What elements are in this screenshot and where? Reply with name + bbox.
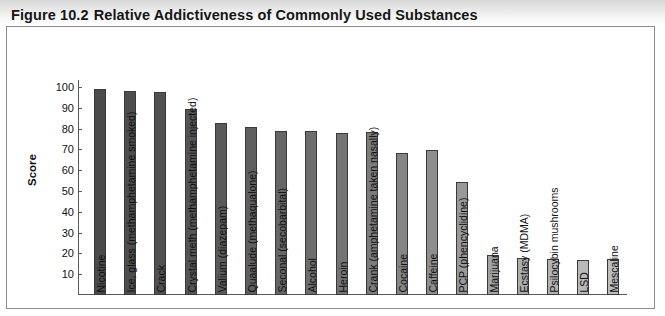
bar-group[interactable]: Heroin (336, 80, 348, 295)
figure-title-band: Figure 10.2Relative Addictiveness of Com… (0, 0, 665, 26)
bar-group[interactable]: Quaalude (methaqualone) (245, 80, 257, 295)
bar-group[interactable]: LSD (577, 80, 589, 295)
bar-group[interactable]: Valium (diazepam) (215, 80, 227, 295)
bar-category-label: Crank (amphetamine taken nasally) (367, 126, 378, 292)
bar-category-label: Crystal meth (methamphetamine injected) (186, 97, 197, 292)
y-axis-tick: 90 (62, 102, 78, 114)
bar-group[interactable]: Marijuana (487, 80, 499, 295)
bar-category-label: Heroin (337, 261, 348, 292)
bar-series: NicotineIce, glass (methamphetamine smok… (78, 80, 627, 295)
bar-category-label: Psilocybin mushrooms (549, 187, 560, 292)
bar-category-label: Marijuana (488, 246, 499, 292)
y-axis-tick: 40 (62, 206, 78, 218)
bar-group[interactable]: Cocaine (396, 80, 408, 295)
figure-title: Figure 10.2Relative Addictiveness of Com… (11, 7, 478, 23)
bar-category-label: Caffeine (428, 253, 439, 292)
figure-container: Figure 10.2Relative Addictiveness of Com… (0, 0, 665, 316)
figure-caption: Relative Addictiveness of Commonly Used … (94, 7, 478, 23)
bar-group[interactable]: Psilocybin mushrooms (547, 80, 559, 295)
bar-category-label: Cocaine (398, 253, 409, 292)
y-axis-tick-label: 90 (62, 102, 78, 114)
bar-group[interactable]: PCP (phencyclidine) (456, 80, 468, 295)
bar-group[interactable]: Caffeine (426, 80, 438, 295)
y-axis-tick: 100 (56, 81, 78, 93)
bar-group[interactable]: Crank (amphetamine taken nasally) (366, 80, 378, 295)
bar-group[interactable]: Seconal (secobarbital) (275, 80, 287, 295)
bar-category-label: Alcohol (307, 258, 318, 292)
y-axis-tick: 20 (62, 247, 78, 259)
bar-group[interactable]: Ice, glass (methamphetamine smoked) (124, 80, 136, 295)
y-axis-tick-label: 20 (62, 247, 78, 259)
y-axis-tick: 60 (62, 164, 78, 176)
bar-category-label: Crack (156, 265, 167, 292)
y-axis-tick: 50 (62, 185, 78, 197)
y-axis-tick-label: 40 (62, 206, 78, 218)
bar-category-label: Nicotine (96, 254, 107, 292)
y-axis-tick-label: 30 (62, 227, 78, 239)
y-axis-tick-label: 50 (62, 185, 78, 197)
y-axis-tick: 30 (62, 227, 78, 239)
bar-category-label: Ice, glass (methamphetamine smoked) (126, 111, 137, 292)
bar-group[interactable]: Alcohol (305, 80, 317, 295)
y-axis-tick-label: 60 (62, 164, 78, 176)
y-axis-tick-label: 100 (56, 81, 78, 93)
y-axis-tick-label: 70 (62, 143, 78, 155)
bar-category-label: Ecstasy (MDMA) (518, 213, 529, 292)
bar-category-label: Valium (diazepam) (216, 205, 227, 292)
bar-group[interactable]: Nicotine (94, 80, 106, 295)
y-axis-tick-label: 80 (62, 123, 78, 135)
bar-group[interactable]: Mescaline (607, 80, 619, 295)
bar-category-label: PCP (phencyclidine) (458, 197, 469, 292)
bar-group[interactable]: Ecstasy (MDMA) (517, 80, 529, 295)
y-axis-tick-label: 10 (62, 268, 78, 280)
y-axis-tick: 10 (62, 268, 78, 280)
y-axis-tick: 80 (62, 123, 78, 135)
bar-category-label: Quaalude (methaqualone) (247, 170, 258, 292)
bar-category-label: LSD (579, 272, 590, 292)
bar-group[interactable]: Crack (154, 80, 166, 295)
bar-category-label: Mescaline (609, 245, 620, 292)
bar-category-label: Seconal (secobarbital) (277, 188, 288, 292)
y-axis-tick: 70 (62, 143, 78, 155)
figure-number: Figure 10.2 (11, 7, 89, 23)
bar-group[interactable]: Crystal meth (methamphetamine injected) (185, 80, 197, 295)
y-axis-title: Score (26, 154, 38, 186)
